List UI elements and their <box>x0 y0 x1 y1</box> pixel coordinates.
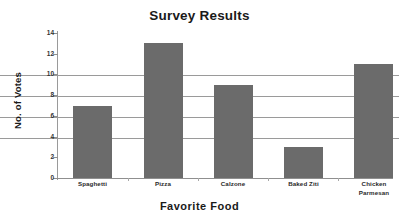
bar-chicken-parmesan <box>354 64 393 178</box>
y-tick-label-4: 4 <box>36 134 54 141</box>
x-axis-title: Favorite Food <box>0 200 399 212</box>
x-label-spaghetti: Spaghetti <box>58 180 127 189</box>
y-tick-label-10: 10 <box>36 71 54 78</box>
x-label-chicken-parmesan: Chicken Parmesan <box>339 180 399 197</box>
bar-spaghetti <box>73 106 112 179</box>
x-label-calzone: Calzone <box>198 180 268 189</box>
y-tick-label-6: 6 <box>36 113 54 120</box>
bar-series <box>58 33 392 178</box>
bar-calzone <box>214 85 253 178</box>
y-tick-label-0: 0 <box>36 175 54 182</box>
y-tick-label-8: 8 <box>36 92 54 99</box>
bar-chart: Survey Results 14 12 10 8 6 4 2 0 Spaghe… <box>0 0 399 220</box>
x-label-pizza: Pizza <box>128 180 198 189</box>
y-tick-label-12: 12 <box>36 51 54 58</box>
chart-title: Survey Results <box>0 8 399 23</box>
x-label-baked-ziti: Baked Ziti <box>268 180 339 189</box>
x-label-chicken-parmesan-line1: Chicken <box>362 180 387 187</box>
y-axis-title: No. of Votes <box>12 56 23 146</box>
x-axis-line <box>57 178 393 179</box>
bar-baked-ziti <box>284 147 323 178</box>
x-label-chicken-parmesan-line2: Parmesan <box>359 189 389 196</box>
y-tick-label-14: 14 <box>36 30 54 37</box>
y-tick-label-2: 2 <box>36 154 54 161</box>
y-axis-tick-labels: 14 12 10 8 6 4 2 0 <box>36 0 54 220</box>
bar-pizza <box>144 43 183 178</box>
